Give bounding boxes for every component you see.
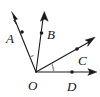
- point-D-label: D: [66, 79, 77, 94]
- label-group: A B C D O: [5, 27, 87, 94]
- point-C-dot: [75, 47, 79, 51]
- arrowhead-OC-icon: [85, 37, 95, 46]
- point-B-dot: [40, 31, 44, 35]
- ray-OB-line: [36, 17, 43, 72]
- arrowhead-OB-icon: [40, 12, 48, 22]
- geometry-figure: A B C D O: [0, 0, 100, 97]
- point-A-label: A: [5, 31, 14, 46]
- point-D-dot: [70, 70, 74, 74]
- geometry-canvas: A B C D O: [0, 0, 100, 97]
- arrowhead-OA-icon: [12, 12, 18, 25]
- point-C-label: C: [78, 53, 87, 68]
- point-B-label: B: [47, 27, 55, 42]
- point-A-dot: [20, 30, 24, 34]
- ray-OA-line: [14, 17, 37, 73]
- vertex-O-label: O: [28, 78, 38, 93]
